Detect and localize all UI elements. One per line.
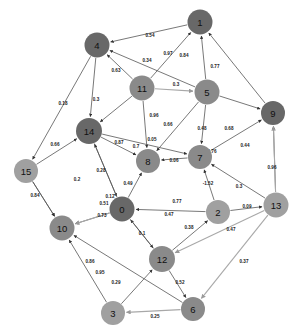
edge-weight-label: 0.47 [227,227,236,232]
node-label: 8 [145,156,150,167]
edge-weight-label: 0.28 [97,168,106,173]
edge-weight-label: 0.3 [93,97,100,102]
node-label: 1 [197,17,202,28]
node-label: 6 [190,304,195,315]
edge-weight-label: 0.25 [151,314,160,319]
graph-edge [201,105,205,144]
edge-weight-label: -1.52 [203,181,214,186]
graph-node[interactable]: 15 [14,159,38,183]
edge-weight-label: 0.48 [198,126,207,131]
edge-weight-label: 0.3 [173,82,180,87]
graph-edge [33,182,55,217]
edge-weight-label: 0.96 [268,165,277,170]
graph-edge [90,58,95,117]
graph-edge [121,270,152,304]
edge-weight-label: 0.29 [112,280,121,285]
graph-edge-labels-layer: 0.540.970.840.770.340.630.30.30.180.960.… [31,33,277,319]
graph-node[interactable]: 10 [50,216,75,241]
edge-weight-label: 0.05 [148,137,157,142]
graph-edge [155,89,193,91]
graph-node[interactable]: 1 [188,10,213,35]
graph-node[interactable]: 5 [195,80,220,105]
edge-weight-label: 0.77 [173,199,182,204]
graph-node[interactable]: 9 [261,101,285,125]
edge-weight-label: 0.49 [124,181,133,186]
edge-weight-label: 0.84 [31,193,40,198]
network-graph-figure: 0.540.970.840.770.340.630.30.30.180.960.… [0,0,304,335]
edge-weight-label: 0.96 [150,113,159,118]
edge-weight-label: 0.63 [112,68,121,73]
graph-edge [219,96,260,109]
edge-weight-label: 0.66 [51,142,60,147]
graph-edge [33,56,91,159]
node-label: 12 [157,254,168,265]
graph-edge [126,310,180,313]
edge-weight-label: 0.52 [176,280,185,285]
edge-weight-label: 0.18 [59,101,68,106]
edge-weight-label: 0.34 [143,58,152,63]
node-label: 2 [215,207,220,218]
edge-weight-label: 0.38 [185,225,194,230]
graph-edge [273,126,275,192]
graph-node[interactable]: 8 [136,149,160,173]
edge-weight-label: 0.09 [243,204,252,209]
edge-weight-label: 0.2 [74,177,81,182]
edge-weight-label: 0.3 [236,184,243,189]
graph-node[interactable]: 3 [101,301,125,325]
graph-edge [211,120,262,151]
node-label: 15 [21,166,32,177]
graph-edge [211,164,265,198]
edge-weight-label: 0.37 [240,259,249,264]
node-label: 7 [197,152,202,163]
graph-node[interactable]: 13 [264,193,289,218]
node-label: 14 [84,126,95,137]
node-label: 13 [271,200,282,211]
node-label: 9 [270,108,275,119]
graph-node[interactable]: 0 [110,197,135,222]
graph-node[interactable]: 2 [206,200,230,224]
node-label: 4 [94,40,99,51]
graph-node[interactable]: 4 [85,33,110,58]
edge-weight-label: 0.95 [96,270,105,275]
node-label: 11 [137,83,147,94]
graph-node[interactable]: 12 [149,246,175,272]
edge-weight-label: 0.7 [133,144,140,149]
node-label: 5 [204,87,209,98]
edge-weight-label: 0.44 [241,143,250,148]
edge-weight-label: 0.47 [165,212,174,217]
graph-node[interactable]: 7 [188,145,212,169]
node-label: 3 [110,308,115,319]
graph-node[interactable]: 6 [181,297,205,321]
edge-weight-label: 0.54 [146,33,155,38]
graph-edge [201,36,205,79]
edge-weight-label: 0.86 [86,259,95,264]
edge-weight-label: 0.66 [164,122,173,127]
edge-weight-label: 0.97 [164,51,173,56]
edge-weight-label: 0.12 [106,194,115,199]
graph-node[interactable]: 14 [76,118,102,144]
graph-nodes-layer: 1411591487151302101236 [14,10,289,326]
edge-weight-label: 0.84 [180,53,189,58]
edge-weight-label: 0.68 [225,126,234,131]
node-label: 0 [119,204,124,215]
node-label: 10 [57,223,68,234]
edge-weight-label: 0.51 [100,201,109,206]
edge-weight-label: 0.06 [170,158,179,163]
graph-edge [100,96,132,122]
edge-weight-label: 0.73 [98,213,107,218]
graph-edge [143,101,147,148]
graph-node[interactable]: 11 [130,76,155,101]
edge-weight-label: 0.77 [211,64,220,69]
edge-weight-label: 0.87 [115,140,124,145]
graph-canvas: 0.540.970.840.770.340.630.30.30.180.960.… [0,0,304,335]
edge-weight-label: 0.1 [139,231,146,236]
